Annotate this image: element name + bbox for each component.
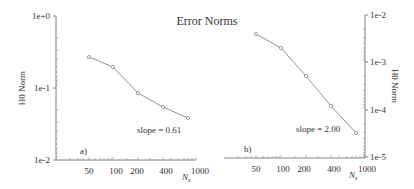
left-xtick-50: 50 (85, 166, 95, 176)
right-xtick-100: 100 (276, 164, 290, 174)
right-ytick-1e-2: 1e-2 (370, 10, 386, 20)
left-panel-label: a) (80, 146, 87, 156)
right-data-line (256, 34, 356, 133)
left-xtick-400: 400 (159, 166, 173, 176)
left-ytick-1e-1: 1e-1 (34, 83, 50, 93)
left-y-label: H0 Norm (17, 71, 27, 105)
right-ytick-1e-5: 1e-5 (370, 152, 386, 162)
left-ytick-1e0: 1e+0 (32, 11, 51, 21)
right-y-label: H0 Norm (390, 69, 400, 103)
panel-a: 1e+0 1e-1 1e-2 H0 Norm 50 100 200 400 10… (17, 11, 210, 183)
left-ytick-1e-2: 1e-2 (34, 155, 50, 165)
right-x-label: Nx (348, 170, 358, 181)
right-y-major-ticks (365, 15, 368, 157)
panel-b: 1e-2 1e-3 1e-4 1e-5 H0 Norm 50 100 200 4… (224, 10, 400, 181)
right-x-ticks (238, 155, 364, 158)
left-data-markers (87, 55, 189, 119)
left-x-label: Nx (181, 172, 191, 183)
right-xtick-1000: 1000 (358, 164, 377, 174)
right-slope-label: slope = 2.00 (296, 124, 341, 134)
left-x-ticks (70, 157, 196, 160)
right-panel-label: b) (244, 144, 252, 154)
left-xtick-200: 200 (130, 166, 144, 176)
error-norms-figure: Error Norms (0, 0, 414, 189)
right-ytick-1e-3: 1e-3 (370, 57, 386, 67)
chart-title: Error Norms (177, 14, 238, 28)
left-y-major-ticks (53, 16, 56, 160)
left-xtick-1000: 1000 (191, 166, 210, 176)
right-xtick-200: 200 (297, 164, 311, 174)
left-data-line (89, 57, 188, 118)
right-xtick-400: 400 (327, 164, 341, 174)
right-data-markers (254, 32, 357, 134)
right-ytick-1e-4: 1e-4 (370, 105, 386, 115)
left-xtick-100: 100 (109, 166, 123, 176)
left-slope-label: slope = 0.61 (137, 125, 181, 135)
right-xtick-50: 50 (252, 164, 262, 174)
